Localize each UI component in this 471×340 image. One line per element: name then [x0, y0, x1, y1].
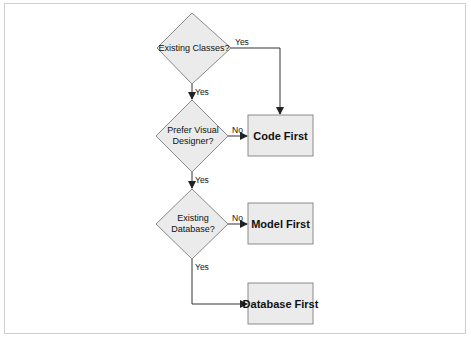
- decision-existing-classes: Existing Classes?: [157, 13, 231, 84]
- outcome-label: Model First: [251, 218, 310, 230]
- outcome-model-first: Model First: [248, 203, 313, 244]
- decision-label: Existing Classes?: [158, 43, 229, 53]
- edge-d1-code-first: [231, 48, 280, 114]
- edge-label-d2-right: No: [232, 125, 243, 135]
- edge-label-d1-down: Yes: [195, 87, 209, 97]
- decision-label-line-1: Prefer Visual: [167, 125, 218, 135]
- edge-label-d1-right: Yes: [235, 37, 249, 47]
- edge-label-d3-down: Yes: [195, 262, 209, 272]
- decision-existing-database: Existing Database?: [156, 189, 228, 259]
- outcome-code-first: Code First: [248, 115, 313, 156]
- decision-label-line-1: Existing: [177, 213, 209, 223]
- decision-label-line-2: Database?: [171, 224, 215, 234]
- outcome-label: Database First: [243, 298, 319, 310]
- decision-prefer-visual-designer: Prefer Visual Designer?: [156, 100, 228, 172]
- edge-label-d3-right: No: [232, 213, 243, 223]
- flowchart: Yes Yes No Yes No Yes Existing Classes? …: [0, 0, 471, 340]
- edge-label-d2-down: Yes: [195, 175, 209, 185]
- outcome-database-first: Database First: [243, 283, 319, 324]
- decision-label-line-2: Designer?: [172, 136, 213, 146]
- outcome-label: Code First: [253, 130, 308, 142]
